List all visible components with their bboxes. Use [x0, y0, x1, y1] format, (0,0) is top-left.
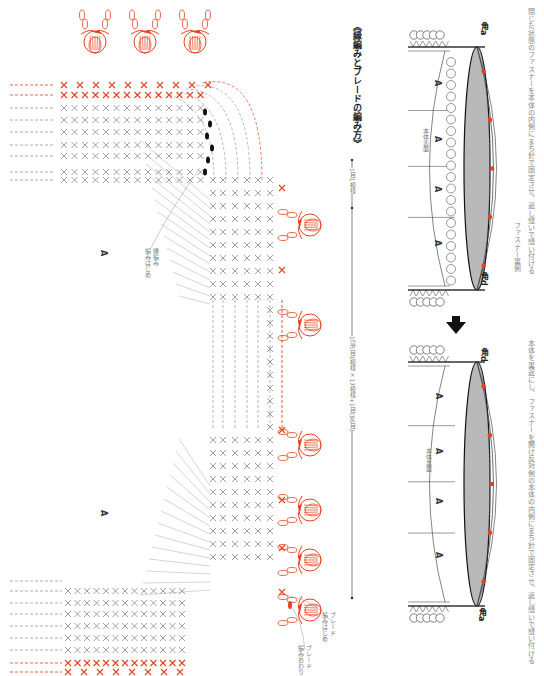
braid-end-label: ブレード 編みおわり — [296, 645, 312, 675]
single-crochet-stitch — [220, 294, 226, 300]
petal-line — [193, 36, 194, 50]
single-crochet-stitch — [232, 515, 238, 521]
single-crochet-stitch — [124, 142, 130, 148]
long-stitch — [170, 475, 210, 510]
petal-line — [304, 323, 318, 324]
single-crochet-stitch — [177, 129, 183, 135]
single-crochet-stitch — [61, 169, 67, 175]
single-crochet-stitch — [244, 203, 250, 209]
single-crochet-stitch — [210, 203, 216, 209]
single-crochet-stitch — [179, 647, 185, 653]
single-crochet-stitch — [279, 497, 285, 503]
petal-line — [304, 608, 318, 609]
single-crochet-stitch — [65, 611, 71, 617]
single-crochet-stitch — [94, 588, 100, 594]
single-crochet-stitch — [157, 82, 163, 88]
chain-loop — [206, 10, 211, 20]
chain-loop — [287, 498, 297, 503]
single-crochet-stitch — [220, 190, 226, 196]
section-label: A — [433, 136, 442, 142]
single-crochet-stitch — [103, 105, 109, 111]
single-crochet-stitch — [156, 142, 162, 148]
single-crochet-stitch — [94, 600, 100, 606]
single-crochet-stitch — [113, 588, 119, 594]
single-crochet-stitch — [232, 281, 238, 287]
single-crochet-stitch — [179, 635, 185, 641]
single-crochet-stitch — [113, 600, 119, 606]
step2-corner-top: 角d — [478, 348, 489, 362]
long-stitch — [158, 523, 210, 542]
stitch-circle — [447, 253, 456, 262]
long-stitch — [161, 224, 210, 256]
corner-arc — [186, 89, 238, 180]
long-stitch — [173, 272, 210, 288]
single-crochet-stitch — [198, 105, 204, 111]
single-crochet-stitch — [135, 92, 141, 98]
stitch-circle — [447, 161, 456, 170]
single-crochet-stitch — [267, 515, 273, 521]
stitch-circle — [447, 230, 456, 239]
single-crochet-stitch — [156, 92, 162, 98]
single-crochet-stitch — [124, 177, 130, 183]
single-crochet-stitch — [94, 647, 100, 653]
single-crochet-stitch — [151, 660, 157, 666]
chain-circle — [436, 298, 444, 306]
single-crochet-stitch — [267, 476, 273, 482]
single-crochet-stitch — [267, 229, 273, 235]
stitch-circle — [447, 81, 456, 90]
single-crochet-stitch — [244, 463, 250, 469]
petal-line — [304, 229, 318, 230]
single-crochet-stitch — [113, 660, 119, 666]
opening — [464, 362, 490, 606]
single-crochet-stitch — [187, 153, 193, 159]
single-crochet-stitch — [255, 242, 261, 248]
chain-circle — [436, 31, 444, 39]
single-crochet-stitch — [267, 437, 273, 443]
single-crochet-stitch — [75, 623, 81, 629]
single-crochet-stitch — [220, 463, 226, 469]
single-crochet-stitch — [114, 117, 120, 123]
chain-loop — [130, 10, 135, 20]
stitch-circle — [447, 265, 456, 274]
long-stitch — [155, 200, 210, 240]
single-crochet-stitch — [82, 142, 88, 148]
single-crochet-stitch — [267, 203, 273, 209]
single-crochet-stitch — [232, 203, 238, 209]
single-crochet-stitch — [198, 177, 204, 183]
single-crochet-stitch — [141, 635, 147, 641]
flower-motif — [278, 595, 321, 626]
single-crochet-stitch — [220, 177, 226, 183]
single-crochet-stitch — [84, 611, 90, 617]
single-crochet-stitch — [244, 242, 250, 248]
single-crochet-stitch — [232, 255, 238, 261]
step1-caption: 閉じた状態のファスナーを本体の内側にまち針で固定させ、返し縫いで縫い付ける — [526, 8, 536, 274]
single-crochet-stitch — [103, 623, 109, 629]
single-crochet-stitch — [129, 669, 135, 675]
long-stitch — [155, 535, 210, 550]
single-crochet-stitch — [151, 588, 157, 594]
single-crochet-stitch — [232, 268, 238, 274]
single-crochet-stitch — [122, 660, 128, 666]
body-stitch-column — [447, 58, 456, 286]
single-crochet-stitch — [232, 489, 238, 495]
single-crochet-stitch — [255, 502, 261, 508]
petal-line — [304, 320, 318, 321]
stitch-circle — [447, 219, 456, 228]
single-crochet-stitch — [187, 142, 193, 148]
section-label: A — [433, 186, 442, 192]
single-crochet-stitch — [220, 216, 226, 222]
single-crochet-stitch — [113, 623, 119, 629]
stitch-circle — [447, 196, 456, 205]
single-crochet-stitch — [135, 105, 141, 111]
petal-line — [304, 329, 318, 330]
single-crochet-stitch — [232, 190, 238, 196]
single-crochet-stitch — [267, 502, 273, 508]
petal-line — [99, 36, 100, 50]
single-crochet-stitch — [244, 541, 250, 547]
chain-loop — [287, 518, 297, 523]
single-crochet-stitch — [205, 82, 211, 88]
single-crochet-stitch — [255, 437, 261, 443]
dimension-dot — [351, 207, 354, 210]
stitch-circle — [447, 69, 456, 78]
single-crochet-stitch — [160, 635, 166, 641]
